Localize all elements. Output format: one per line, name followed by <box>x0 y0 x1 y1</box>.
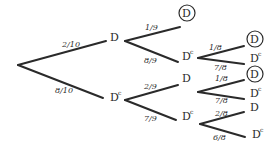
complement-superscript: c <box>258 50 262 57</box>
tree-svg: 2/108/101/98/92/97/91/87/81/87/82/86/8DD… <box>0 0 276 152</box>
node-label: D <box>110 31 119 44</box>
tree-edge: 2/8 <box>200 109 244 124</box>
branch-probability: 7/8 <box>215 96 228 105</box>
tree-edge: 1/8 <box>198 43 244 58</box>
tree-node: Dc <box>182 108 194 123</box>
branch-probability: 8/9 <box>144 56 157 65</box>
branch-probability: 8/10 <box>55 86 73 95</box>
tree-node: Dc <box>252 126 264 141</box>
branch-probability: 7/8 <box>214 63 227 72</box>
branch-probability: 2/10 <box>61 40 80 49</box>
circled-node: D <box>179 5 195 21</box>
branch-probability: 2/8 <box>214 109 228 118</box>
tree-edge: 1/9 <box>125 23 180 41</box>
tree-node: Dc <box>182 48 194 63</box>
tree-node: Dc <box>250 50 262 65</box>
circled-node: D <box>247 31 263 47</box>
tree-edge: 7/8 <box>198 58 244 72</box>
branch-probability: 6/8 <box>213 133 226 142</box>
node-label: D <box>182 72 191 85</box>
tree-edge: 2/9 <box>125 82 178 100</box>
node-label: D <box>250 101 259 114</box>
node-label: D <box>250 68 259 81</box>
tree-edge: 2/10 <box>18 40 106 65</box>
node-label: D <box>250 33 259 46</box>
tree-node: D <box>182 72 191 85</box>
node-label: D <box>182 7 191 20</box>
tree-edge: 8/9 <box>125 41 178 65</box>
tree-edge: 7/9 <box>125 100 176 123</box>
complement-superscript: c <box>118 89 122 96</box>
complement-superscript: c <box>190 48 194 55</box>
branch-probability: 1/8 <box>209 43 222 52</box>
branch-probability: 1/9 <box>145 23 158 32</box>
complement-superscript: c <box>190 108 194 115</box>
complement-superscript: c <box>258 85 262 92</box>
branch-probability: 1/8 <box>215 74 228 83</box>
tree-edge: 7/8 <box>198 92 244 105</box>
complement-superscript: c <box>260 126 264 133</box>
branch-probability: 2/9 <box>143 82 157 91</box>
tree-edge: 6/8 <box>200 124 245 142</box>
circled-node: D <box>247 66 263 82</box>
tree-node: D <box>250 101 259 114</box>
tree-node: Dc <box>110 89 122 104</box>
tree-node: D <box>110 31 119 44</box>
branch-probability: 7/9 <box>144 114 157 123</box>
probability-tree-diagram: 2/108/101/98/92/97/91/87/81/87/82/86/8DD… <box>0 0 276 152</box>
tree-node: Dc <box>250 85 262 100</box>
tree-edge: 1/8 <box>198 74 244 92</box>
tree-edge: 8/10 <box>18 65 103 98</box>
